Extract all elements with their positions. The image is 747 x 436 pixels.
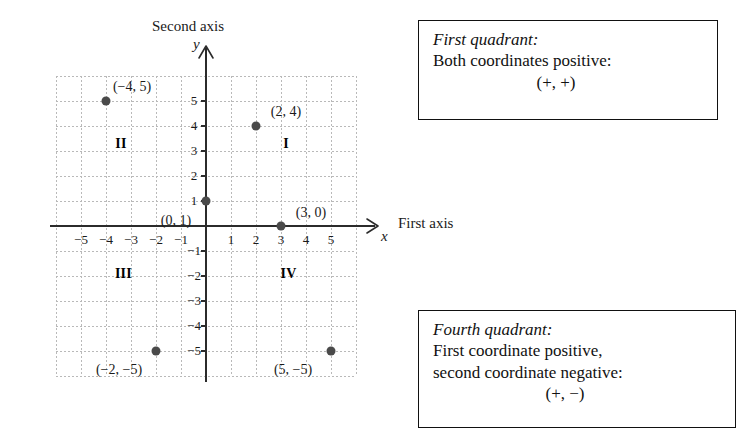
y-tick-label: 3	[191, 143, 198, 159]
data-point-label: (−4, 5)	[113, 79, 151, 95]
callout-fourth-quadrant-signs: (+, −)	[433, 383, 725, 405]
y-tick-label: 1	[191, 193, 198, 209]
y-tick-label: 5	[191, 93, 198, 109]
x-tick-label: −1	[174, 232, 188, 248]
data-point-label: (5, −5)	[274, 362, 312, 378]
y-tick-label: 2	[191, 168, 198, 184]
horizontal-axis-title: First axis	[398, 215, 453, 232]
x-tick-label: 2	[253, 232, 260, 248]
y-tick-label: −4	[187, 318, 201, 334]
x-tick-label: 3	[278, 232, 285, 248]
data-point	[277, 222, 286, 231]
quadrant-label-iii: III	[115, 266, 132, 282]
x-tick-label: −5	[74, 232, 88, 248]
data-point-label: (2, 4)	[271, 104, 301, 120]
callout-first-quadrant-heading: First quadrant:	[433, 29, 707, 50]
y-tick-label: 4	[191, 118, 198, 134]
y-tick-label: −1	[187, 243, 201, 259]
data-point	[327, 347, 336, 356]
x-tick-label: 4	[303, 232, 310, 248]
x-tick-label: 5	[328, 232, 335, 248]
callout-fourth-quadrant-heading: Fourth quadrant:	[433, 319, 725, 340]
x-tick-label: 1	[228, 232, 235, 248]
x-tick-label: −4	[99, 232, 113, 248]
coordinate-plane: Second axis First axis y x −5−4−3−2−1123…	[0, 0, 400, 436]
y-tick-label: −5	[187, 343, 201, 359]
callout-fourth-quadrant-line1: First coordinate positive,	[433, 340, 725, 361]
data-point	[202, 197, 211, 206]
callout-fourth-quadrant: Fourth quadrant: First coordinate positi…	[418, 310, 736, 428]
y-tick-label: −3	[187, 293, 201, 309]
x-variable-label: x	[381, 228, 388, 245]
callout-fourth-quadrant-line2: second coordinate negative:	[433, 362, 725, 383]
callout-first-quadrant: First quadrant: Both coordinates positiv…	[418, 20, 718, 120]
plane-svg	[0, 0, 400, 436]
y-variable-label: y	[193, 36, 200, 53]
data-point-label: (3, 0)	[296, 205, 326, 221]
quadrant-label-iv: IV	[280, 266, 296, 282]
y-tick-label: −2	[187, 268, 201, 284]
x-tick-label: −2	[149, 232, 163, 248]
data-point	[252, 122, 261, 131]
data-point	[102, 97, 111, 106]
quadrant-label-i: I	[283, 136, 289, 152]
data-point-label: (0, 1)	[161, 213, 191, 229]
callout-first-quadrant-line1: Both coordinates positive:	[433, 50, 707, 71]
quadrant-label-ii: II	[115, 136, 127, 152]
x-tick-label: −3	[124, 232, 138, 248]
axis-lines	[50, 48, 375, 382]
data-point	[152, 347, 161, 356]
vertical-axis-title: Second axis	[152, 18, 224, 35]
data-point-label: (−2, −5)	[96, 362, 142, 378]
figure-root: Second axis First axis y x −5−4−3−2−1123…	[0, 0, 747, 436]
callout-first-quadrant-signs: (+, +)	[433, 72, 707, 94]
